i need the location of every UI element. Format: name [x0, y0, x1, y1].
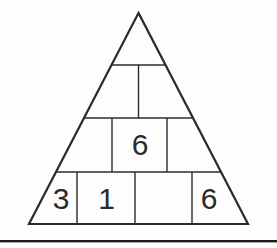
- worksheet-page: 6 3 1 6: [0, 0, 277, 248]
- page-divider-rule: [0, 240, 277, 242]
- cell-r4c4-value: 6: [201, 182, 218, 215]
- cell-r3c2-value: 6: [132, 128, 149, 161]
- cell-r4c2-value: 1: [98, 182, 115, 215]
- cell-r4c1-value: 3: [53, 182, 70, 215]
- number-pyramid-figure: 6 3 1 6: [0, 0, 277, 248]
